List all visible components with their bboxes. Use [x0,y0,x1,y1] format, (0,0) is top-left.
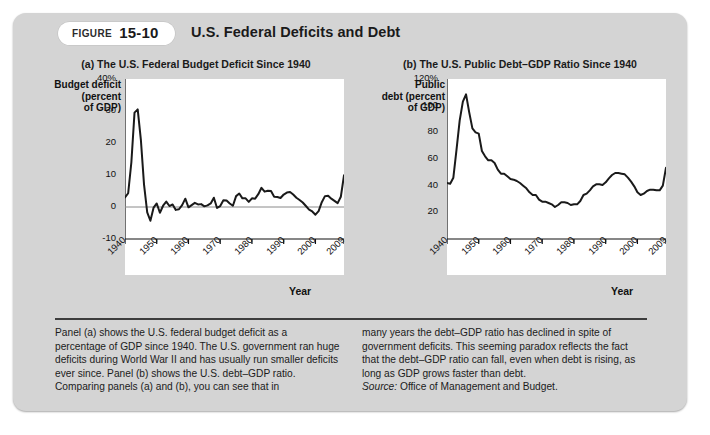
svg-a-ytick-label: 40% [56,72,116,83]
caption-divider [55,318,647,320]
svg-a-ytick-label: 30 [56,104,116,115]
caption-source-text: Office of Management and Budget. [400,381,558,392]
panel-b-title: (b) The U.S. Public Debt–GDP Ratio Since… [361,58,679,70]
svg-a-ytick-label: -10 [56,232,116,243]
panel-a-plot: -10010203040%194019501960197019801990200… [125,79,344,275]
figure-header: FIGURE 15-10 U.S. Federal Deficits and D… [13,13,687,55]
figure-badge-label: FIGURE [72,28,112,39]
panel-b-x-axis-label: Year [611,285,633,297]
svg-a-ytick-label: 0 [56,200,116,211]
svg-b-ytick-label: 100 [378,99,438,110]
caption-column-right: many years the debt–GDP ratio has declin… [362,326,647,394]
panels-container: (a) The U.S. Federal Budget Deficit Sinc… [13,55,687,310]
figure-caption: Panel (a) shows the U.S. federal budget … [55,326,647,394]
svg-b-ytick-label: 60 [378,152,438,163]
panel-a: (a) The U.S. Federal Budget Deficit Sinc… [31,55,361,310]
panel-b-plot: 20406080100120%1940195019601970198019902… [447,79,666,275]
caption-source: Source: Office of Management and Budget. [362,380,647,394]
caption-column-left: Panel (a) shows the U.S. federal budget … [55,326,340,394]
panel-a-title: (a) The U.S. Federal Budget Deficit Sinc… [31,58,361,70]
panel-a-x-axis-label: Year [289,285,311,297]
svg-b-ytick-label: 20 [378,205,438,216]
panel-b: (b) The U.S. Public Debt–GDP Ratio Since… [361,55,679,310]
svg-a-ytick-label: 10 [56,168,116,179]
caption-text-left: Panel (a) shows the U.S. federal budget … [55,326,340,394]
panel-a-y-axis-label-line2: (percent [39,91,121,103]
figure-number-badge: FIGURE 15-10 [58,22,175,45]
svg-b-ytick-label: 120% [378,72,438,83]
svg-b-ytick-label: 40 [378,179,438,190]
svg-b-ytick-label: 80 [378,125,438,136]
svg-a-ytick-label: 20 [56,136,116,147]
caption-text-right: many years the debt–GDP ratio has declin… [362,326,647,380]
figure-badge-number: 15-10 [119,24,158,41]
figure-frame: FIGURE 15-10 U.S. Federal Deficits and D… [13,13,687,411]
caption-source-label: Source: [362,381,397,392]
figure-title: U.S. Federal Deficits and Debt [191,24,400,40]
